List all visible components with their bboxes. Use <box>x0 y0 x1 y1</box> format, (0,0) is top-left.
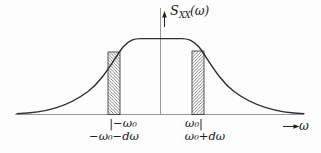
y-axis-label: SXX(ω) <box>170 3 209 23</box>
up-arrow-icon <box>162 11 167 27</box>
right-arrow-icon <box>283 124 300 129</box>
y-axis-label-main: S <box>170 3 179 18</box>
left-band-range-label: −ω₀−dω <box>84 130 144 143</box>
y-axis-label-argument: (ω) <box>190 4 209 18</box>
y-axis-label-subscript: XX <box>179 10 190 20</box>
right-band-range-label: ω₀+dω <box>175 130 235 143</box>
psd-figure: SXX(ω) ω |−ω₀ −ω₀−dω ω₀| ω₀+dω <box>0 0 321 153</box>
x-axis-label: ω <box>299 119 309 133</box>
right-hatched-band <box>192 51 204 115</box>
psd-plot-canvas <box>0 0 321 153</box>
